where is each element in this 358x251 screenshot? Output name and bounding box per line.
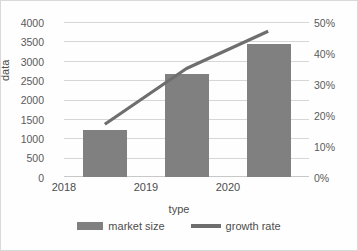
legend-item-label: market size — [108, 220, 164, 232]
chart-legend: market size growth rate — [1, 220, 357, 232]
growth-rate-line — [64, 22, 309, 177]
y-axis-tick-left: 2500 — [21, 76, 44, 87]
y-axis-tick-right: 10% — [314, 142, 335, 153]
chart-container: data 4000 3500 3000 2500 2000 1500 1000 … — [0, 0, 358, 251]
y-axis-tick-left: 500 — [26, 153, 44, 164]
y-axis-tick-right: 0% — [314, 173, 329, 184]
y-axis-tick-left: 3000 — [21, 57, 44, 68]
x-axis-category-label: 2020 — [187, 181, 269, 193]
legend-line-swatch-icon — [191, 224, 221, 228]
legend-bar-swatch-icon — [77, 222, 103, 230]
x-axis-title: type — [1, 203, 357, 215]
y-axis-tick-right: 40% — [314, 49, 335, 60]
legend-item-growth-rate[interactable]: growth rate — [191, 220, 281, 232]
y-axis-tick-left: 2000 — [21, 95, 44, 106]
x-axis-category-label: 2018 — [23, 181, 105, 193]
x-axis-category-label: 2019 — [105, 181, 187, 193]
legend-item-market-size[interactable]: market size — [77, 220, 164, 232]
legend-item-label: growth rate — [226, 220, 281, 232]
y-axis-tick-left: 1500 — [21, 115, 44, 126]
y-axis-tick-left: 3500 — [21, 37, 44, 48]
plot-area — [64, 22, 309, 177]
y-axis-tick-right: 30% — [314, 80, 335, 91]
y-axis-tick-right: 50% — [314, 18, 335, 29]
y-axis-tick-right: 20% — [314, 111, 335, 122]
y-axis-title: data — [0, 60, 11, 81]
y-axis-tick-left: 4000 — [21, 18, 44, 29]
y-axis-tick-left: 1000 — [21, 134, 44, 145]
